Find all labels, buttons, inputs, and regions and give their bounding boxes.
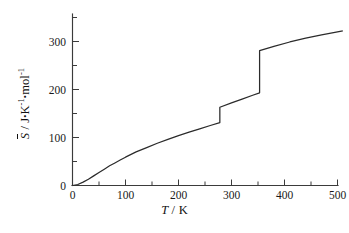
unit-dot-2: • (20, 95, 30, 98)
x-axis-unit: K (179, 203, 188, 217)
y-tick-label-200: 200 (49, 84, 67, 96)
y-axis-separator: / (18, 123, 32, 133)
x-axis-separator: / (168, 203, 178, 217)
y-axis-unit-mole-exponent: -1 (16, 68, 26, 75)
y-axis-title: S / J•K-1•mol-1 (18, 16, 33, 191)
x-axis-title: T / K (0, 203, 349, 218)
y-axis-unit-kelvin-exponent: -1 (16, 98, 26, 105)
figure-container: 0 100 200 300 0 100 200 300 400 500 T / … (0, 0, 349, 233)
y-tick-label-300: 300 (49, 36, 67, 48)
y-axis-variable: S (18, 133, 33, 139)
entropy-curve (73, 31, 343, 186)
y-axis-unit-kelvin: K (18, 105, 32, 114)
entropy-temperature-chart: 0 100 200 300 0 100 200 300 400 500 (0, 0, 349, 233)
y-tick-label-100: 100 (49, 132, 67, 144)
y-axis-unit-mole: mol (18, 75, 32, 95)
x-tick-label-400: 400 (276, 189, 294, 201)
x-tick-label-200: 200 (170, 189, 188, 201)
y-tick-label-0: 0 (60, 180, 66, 192)
x-tick-label-0: 0 (70, 189, 76, 201)
unit-dot-1: • (20, 115, 30, 118)
x-tick-label-100: 100 (117, 189, 135, 201)
y-axis-unit-joule: J (18, 118, 32, 123)
x-tick-label-300: 300 (223, 189, 241, 201)
x-axis-minor-ticks (99, 182, 311, 186)
x-tick-label-500: 500 (329, 189, 347, 201)
